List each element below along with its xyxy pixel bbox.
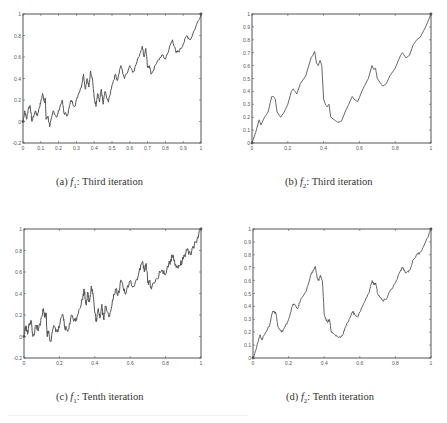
x-tick-label: 0.8 (392, 360, 399, 366)
y-tick-label: 0.4 (244, 303, 251, 309)
y-tick-label: 0 (248, 355, 251, 361)
y-tick-label: 0.3 (244, 316, 251, 322)
caption-d: (d) f2: Tenth iteration (286, 391, 374, 405)
faded-footer-text (8, 415, 248, 416)
x-tick-label: 1 (430, 360, 433, 366)
y-tick-label: 0.8 (244, 252, 251, 258)
endpoint-marker (430, 228, 433, 231)
y-tick-label: 1 (248, 226, 251, 232)
chart-panel-d: 00.20.40.60.8100.10.20.30.40.50.60.70.80… (0, 0, 447, 375)
y-tick-label: 0.7 (244, 265, 251, 271)
y-tick-label: 0.2 (244, 329, 251, 335)
y-tick-label: 0.1 (244, 342, 251, 348)
x-tick-label: 0 (252, 360, 255, 366)
axes-frame (253, 229, 431, 358)
y-tick-label: 0.5 (244, 291, 251, 297)
x-tick-label: 0.4 (321, 360, 328, 366)
y-tick-label: 0.6 (244, 278, 251, 284)
x-tick-label: 0.2 (285, 360, 292, 366)
endpoint-marker (252, 357, 255, 360)
x-tick-label: 0.6 (356, 360, 363, 366)
data-line (253, 229, 431, 358)
caption-c: (c) f1: Tenth iteration (56, 391, 143, 405)
y-tick-label: 0.9 (244, 239, 251, 245)
plot-d: 00.20.40.60.8100.10.20.30.40.50.60.70.80… (0, 0, 447, 375)
